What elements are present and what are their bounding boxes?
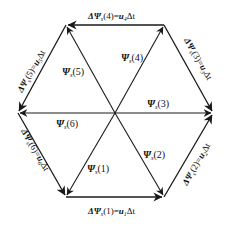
delta-label-4: ΔΨs(4)=u4Δt [87, 11, 136, 22]
delta-vectors [18, 25, 212, 197]
flux-label-3: Ψs(3) [147, 98, 169, 110]
delta-label-6: ΔΨs(6)=u6Δt [18, 126, 52, 174]
delta-label-3: ΔΨs(3)=u3Δt [181, 35, 215, 83]
hexagon-flux-diagram: Ψs(5) Ψs(4) Ψs(3) Ψs(6) Ψs(1) Ψs(2) ΔΨs(… [0, 0, 228, 230]
delta-label-2: ΔΨs(2)=u2Δt [180, 141, 214, 189]
flux-vector-4 [115, 27, 163, 113]
flux-label-1: Ψs(1) [87, 163, 109, 175]
flux-label-5: Ψs(5) [62, 66, 84, 78]
flux-label-4: Ψs(4) [121, 52, 143, 64]
flux-vectors [20, 27, 211, 195]
flux-label-2: Ψs(2) [143, 149, 165, 161]
delta-label-1: ΔΨs(1)=u1Δt [87, 206, 136, 217]
flux-label-6: Ψs(6) [56, 118, 78, 130]
delta-vector-5 [19, 25, 66, 111]
